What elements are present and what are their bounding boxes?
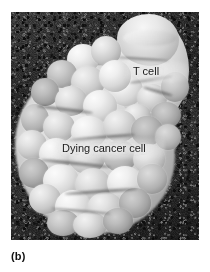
figure-panel: T cell Dying cancer cell (b) [0,0,210,272]
cancer-cell-bleb [73,212,107,238]
dying-cancer-cell-label: Dying cancer cell [62,143,146,154]
figure-caption: (b) [11,250,26,262]
t-cell-surface-ridge [123,30,177,46]
micrograph-image: T cell Dying cancer cell [11,12,199,240]
cancer-cell-bleb [99,60,131,92]
cancer-cell-bleb [155,124,181,150]
t-cell-label: T cell [133,66,159,77]
